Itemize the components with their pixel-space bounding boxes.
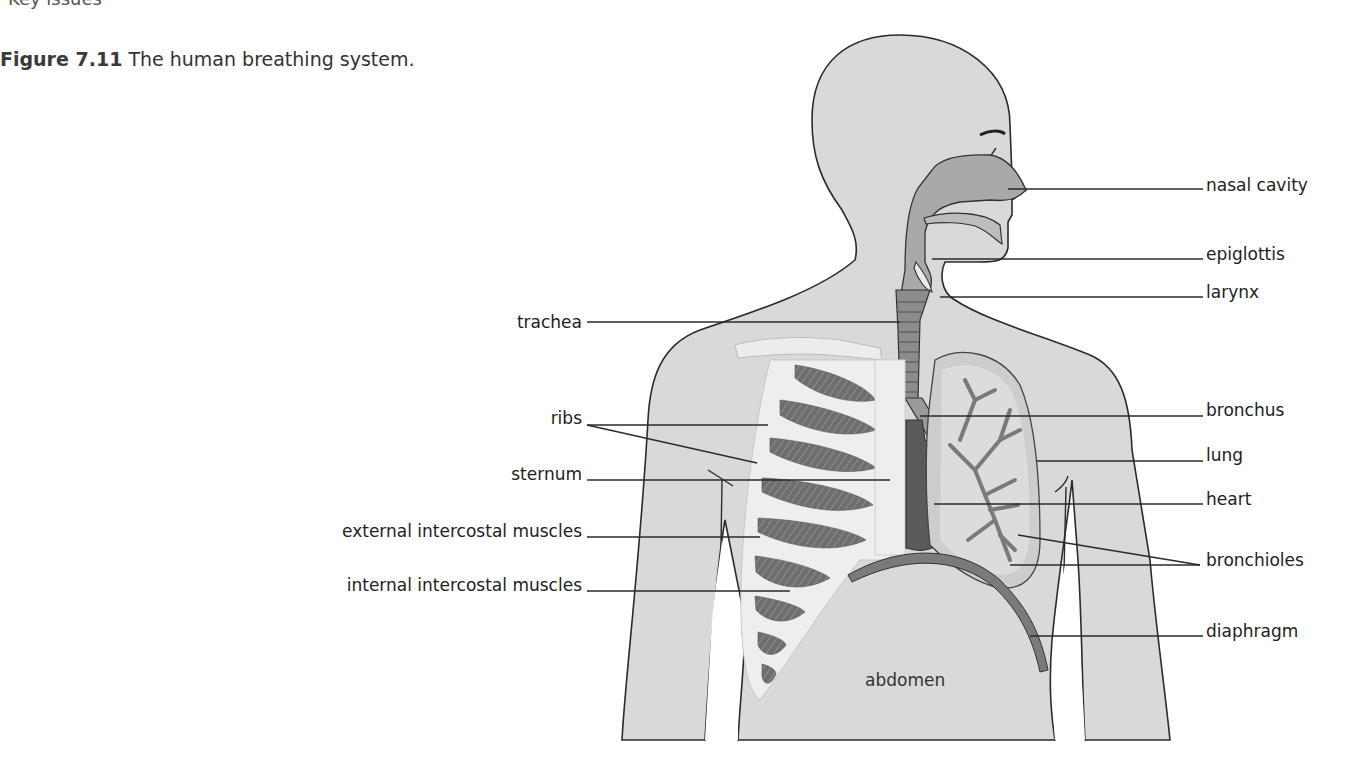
label-external-intercostal-muscles: external intercostal muscles bbox=[342, 521, 582, 541]
label-diaphragm: diaphragm bbox=[1206, 621, 1298, 641]
label-trachea: trachea bbox=[517, 312, 582, 332]
label-ribs: ribs bbox=[551, 408, 582, 428]
label-internal-intercostal-muscles: internal intercostal muscles bbox=[347, 575, 582, 595]
label-abdomen: abdomen bbox=[865, 670, 945, 690]
label-bronchioles: bronchioles bbox=[1206, 550, 1304, 570]
label-epiglottis: epiglottis bbox=[1206, 244, 1285, 264]
breathing-system-diagram bbox=[0, 0, 1348, 774]
label-larynx: larynx bbox=[1206, 282, 1259, 302]
label-sternum: sternum bbox=[511, 464, 582, 484]
label-nasal-cavity: nasal cavity bbox=[1206, 175, 1308, 195]
label-heart: heart bbox=[1206, 489, 1251, 509]
label-bronchus: bronchus bbox=[1206, 400, 1284, 420]
label-lung: lung bbox=[1206, 445, 1243, 465]
